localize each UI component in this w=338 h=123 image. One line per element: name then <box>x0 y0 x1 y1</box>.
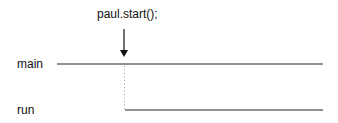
arrow-down-icon <box>120 29 128 57</box>
diagram-canvas <box>0 0 338 123</box>
